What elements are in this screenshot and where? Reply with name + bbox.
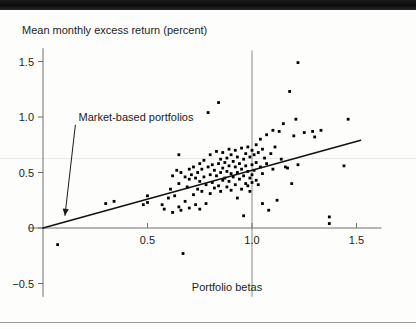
y-tick-label-1: 0 — [28, 222, 34, 234]
data-point — [255, 161, 258, 164]
data-point — [343, 164, 346, 167]
data-point — [320, 129, 323, 132]
data-point — [203, 159, 206, 162]
data-point — [244, 164, 247, 167]
data-point — [200, 190, 203, 193]
y-tick-label-3: 1.0 — [19, 111, 34, 123]
data-point — [200, 168, 203, 171]
data-point — [177, 206, 180, 209]
data-point — [272, 168, 275, 171]
data-point — [240, 147, 243, 150]
data-point — [171, 174, 174, 177]
data-point — [253, 153, 256, 156]
data-point — [56, 243, 59, 246]
data-point — [209, 192, 212, 195]
data-point — [177, 182, 180, 185]
data-point — [228, 148, 231, 151]
data-point — [251, 149, 254, 152]
data-point — [278, 130, 281, 133]
data-point — [251, 163, 254, 166]
data-point — [249, 190, 252, 193]
x-tick-label-0: 0.5 — [140, 234, 155, 246]
data-point — [230, 189, 233, 192]
data-point — [261, 172, 264, 175]
data-point — [219, 171, 222, 174]
tick-label-group: −0.500.51.01.50.51.01.5 — [12, 56, 364, 290]
data-point — [259, 138, 262, 141]
data-point — [265, 162, 268, 165]
data-point — [226, 157, 229, 160]
data-point — [286, 167, 289, 170]
data-point — [173, 194, 176, 197]
data-point — [207, 166, 210, 169]
data-point — [142, 203, 145, 206]
annotation-group: Market-based portfolios — [63, 111, 194, 216]
y-tick-label-0: −0.5 — [12, 278, 34, 290]
data-point — [249, 177, 252, 180]
data-point — [313, 136, 316, 139]
data-point — [251, 173, 254, 176]
data-point — [215, 150, 218, 153]
data-point — [188, 178, 191, 181]
scatter-plot-svg: −0.500.51.01.50.51.01.5 Market-based por… — [0, 0, 416, 329]
data-point — [192, 193, 195, 196]
data-point — [171, 211, 174, 214]
data-point — [196, 188, 199, 191]
data-point — [175, 169, 178, 172]
data-point — [294, 118, 297, 121]
bottom-horizontal-rule — [0, 322, 416, 323]
axes-group — [28, 48, 381, 297]
data-point — [226, 186, 229, 189]
data-point — [184, 200, 187, 203]
data-point — [219, 158, 222, 161]
data-point — [328, 222, 331, 225]
data-point — [242, 158, 245, 161]
data-point — [257, 183, 260, 186]
y-axis-title: Mean monthly excess return (percent) — [22, 24, 207, 36]
data-point — [209, 153, 212, 156]
data-point — [269, 152, 272, 155]
data-point — [240, 188, 243, 191]
data-point — [238, 178, 241, 181]
annotation-arrow-head-0 — [63, 208, 69, 215]
data-point — [347, 118, 350, 121]
data-point — [215, 174, 218, 177]
data-point — [240, 168, 243, 171]
data-point — [182, 252, 185, 255]
y-tick-label-2: 0.5 — [19, 167, 34, 179]
data-point — [226, 170, 229, 173]
data-point — [244, 152, 247, 155]
data-point — [280, 158, 283, 161]
data-point — [265, 133, 268, 136]
data-point — [246, 184, 249, 187]
data-point — [192, 166, 195, 169]
y-tick-label-4: 1.5 — [19, 56, 34, 68]
data-point — [236, 197, 239, 200]
data-point — [203, 176, 206, 179]
data-point — [146, 194, 149, 197]
data-point — [238, 162, 241, 165]
data-point — [221, 151, 224, 154]
data-point — [272, 129, 275, 132]
data-point — [221, 167, 224, 170]
data-point — [167, 197, 170, 200]
data-point — [263, 157, 266, 160]
data-point — [169, 188, 172, 191]
data-point — [209, 173, 212, 176]
data-point — [217, 101, 220, 104]
data-point — [276, 199, 279, 202]
figure-container: −0.500.51.01.50.51.01.5 Market-based por… — [0, 0, 416, 329]
data-point — [207, 111, 210, 114]
data-point — [196, 171, 199, 174]
data-point — [255, 179, 258, 182]
data-point — [217, 184, 220, 187]
data-point — [311, 130, 314, 133]
data-point — [236, 156, 239, 159]
data-point — [223, 161, 226, 164]
data-point — [290, 182, 293, 185]
data-point — [242, 174, 245, 177]
data-point — [180, 209, 183, 212]
data-point — [217, 162, 220, 165]
data-point — [251, 181, 254, 184]
x-tick-label-2: 1.5 — [349, 234, 364, 246]
